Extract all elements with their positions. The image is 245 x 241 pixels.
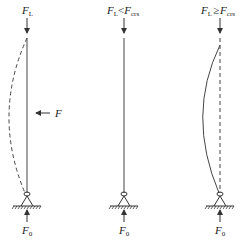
- deflected-shape-solid: [203, 45, 220, 193]
- column-middle: [109, 18, 138, 222]
- pin-support: [109, 192, 138, 209]
- column-right: [203, 18, 234, 222]
- right-bottom-reaction-label: F0: [215, 225, 225, 238]
- middle-top-load-label: FL<Fcrs: [107, 5, 139, 18]
- left-bottom-reaction-label: F0: [22, 225, 32, 238]
- left-lateral-force-label: F: [55, 108, 62, 119]
- deflected-shape-dashed: [9, 38, 27, 193]
- buckling-diagram: [0, 0, 245, 241]
- left-top-load-label: FL: [22, 5, 33, 18]
- middle-bottom-reaction-label: F0: [119, 225, 129, 238]
- pin-support: [12, 192, 41, 209]
- pin-support: [205, 192, 234, 209]
- column-left: [9, 18, 50, 222]
- right-top-load-label: FL≥Fcrs: [201, 5, 235, 18]
